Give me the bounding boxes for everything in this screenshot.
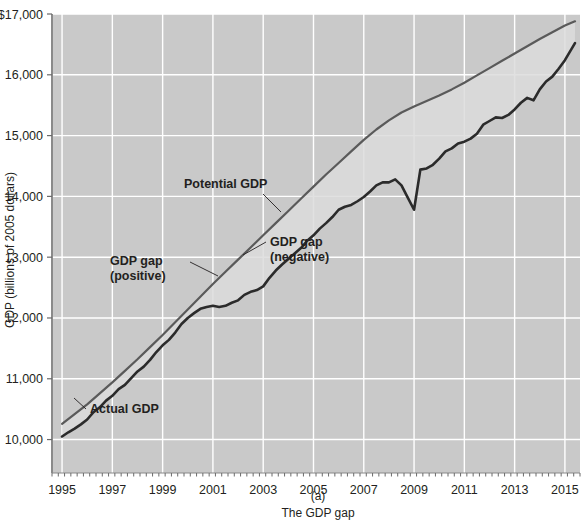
- x-tick-label: 1995: [48, 483, 76, 497]
- x-tick-label: 1997: [98, 483, 126, 497]
- x-tick-label: 2009: [400, 483, 428, 497]
- y-tick-label: 10,000: [5, 433, 43, 447]
- figure-caption-text: The GDP gap: [281, 506, 354, 520]
- x-tick-label: 2015: [551, 483, 579, 497]
- gdp-gap-negative-label-line2: (negative): [270, 250, 329, 264]
- y-tick-label: 15,000: [5, 129, 43, 143]
- x-tick-label: 2003: [249, 483, 277, 497]
- gdp-gap-negative-label-line1: GDP gap: [270, 235, 323, 249]
- y-tick-label: 11,000: [6, 372, 43, 386]
- potential-gdp-label-line1: Potential GDP: [184, 177, 267, 191]
- actual-gdp-label-line1: Actual GDP: [90, 402, 159, 416]
- gdp-gap-figure: $17,00016,00015,00014,00013,00012,00011,…: [0, 0, 583, 525]
- gdp-gap-chart: $17,00016,00015,00014,00013,00012,00011,…: [0, 0, 583, 525]
- x-tick-label: 2007: [350, 483, 378, 497]
- x-tick-label: 2011: [451, 483, 478, 497]
- figure-caption-label: (a): [311, 489, 326, 503]
- x-tick-label: 1999: [149, 483, 177, 497]
- y-axis-title: GDP (billions of 2005 dollars): [3, 172, 17, 328]
- gdp-gap-positive-label-line1: GDP gap: [110, 254, 163, 268]
- gdp-gap-positive-label-line2: (positive): [110, 269, 166, 283]
- y-tick-label: $17,000: [0, 8, 43, 22]
- y-tick-label: 16,000: [5, 68, 43, 82]
- x-tick-label: 2001: [199, 483, 227, 497]
- x-tick-label: 2013: [501, 483, 529, 497]
